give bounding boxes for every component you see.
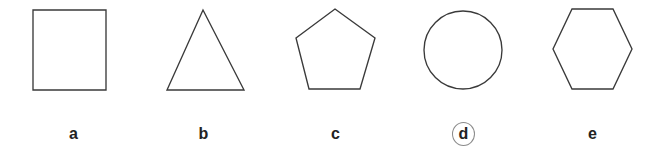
option-label-d-text: d [459, 126, 469, 142]
shape-option-c[interactable] [269, 0, 402, 110]
shape-option-b[interactable] [137, 0, 270, 110]
pentagon-icon [269, 0, 402, 110]
square-icon [7, 0, 140, 110]
option-label-a[interactable]: a [7, 118, 140, 149]
triangle-outline [167, 10, 244, 90]
hexagon-icon [526, 0, 659, 110]
option-label-e-text: e [588, 126, 597, 142]
option-label-c[interactable]: c [269, 118, 402, 149]
option-label-a-text: a [69, 126, 78, 142]
square-outline [33, 10, 106, 90]
option-label-c-text: c [331, 126, 340, 142]
shape-options-figure: a b c d e [0, 0, 663, 149]
option-label-b-text: b [199, 126, 209, 142]
shape-option-e[interactable] [526, 0, 659, 110]
shape-option-a[interactable] [7, 0, 140, 110]
option-label-d[interactable]: d [397, 118, 530, 149]
shape-option-d[interactable] [397, 0, 530, 110]
option-label-e[interactable]: e [526, 118, 659, 149]
triangle-icon [137, 0, 270, 110]
circle-icon [397, 0, 530, 110]
option-label-b[interactable]: b [137, 118, 270, 149]
circle-outline [424, 11, 502, 89]
pentagon-outline [296, 9, 375, 89]
hexagon-outline [553, 9, 632, 89]
